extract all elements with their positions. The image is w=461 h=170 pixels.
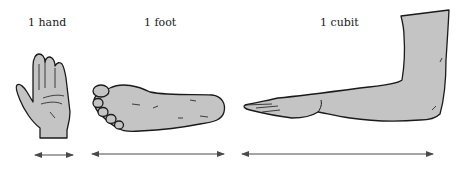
foot-drawing [93,85,225,131]
hand-drawing [16,54,70,138]
illustration [0,0,461,170]
arm-drawing [244,10,449,121]
